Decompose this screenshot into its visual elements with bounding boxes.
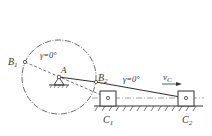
- fixed-pivot-a: [49, 75, 69, 88]
- label-a: A: [60, 65, 67, 75]
- label-vc: vC: [163, 72, 172, 84]
- label-gamma-right: γ=0°: [123, 74, 140, 84]
- pin-c1: [106, 96, 109, 99]
- label-c1: C1: [103, 114, 113, 127]
- joint-b1: [23, 60, 26, 63]
- crank-ab2: [59, 77, 96, 82]
- label-gamma-left: γ=0°: [40, 50, 57, 60]
- label-b1: B1: [8, 56, 18, 69]
- label-c2: C2: [182, 114, 193, 127]
- velocity-arrow-icon: [162, 82, 182, 86]
- pin-c2: [184, 96, 187, 99]
- mechanism-diagram: B1 γ=0° A B2 γ=0° vC C1 C2: [0, 0, 212, 136]
- ground-hatching: [95, 106, 196, 111]
